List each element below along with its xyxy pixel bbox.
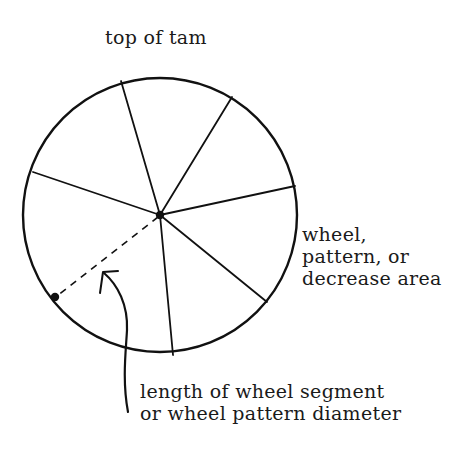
- length-label-line: or wheel pattern diameter: [140, 402, 401, 424]
- dashed-radius-line: [57, 217, 158, 296]
- area-label-line: pattern, or: [302, 245, 442, 267]
- area-label: wheel, pattern, or decrease area: [302, 223, 442, 289]
- arrowhead-icon: [100, 271, 118, 293]
- length-label: length of wheel segment or wheel pattern…: [140, 380, 401, 424]
- spoke-line: [160, 215, 173, 355]
- spoke-line: [33, 172, 160, 215]
- edge-dot: [51, 293, 59, 301]
- diagram-title: top of tam: [105, 26, 207, 48]
- spoke-line: [121, 81, 160, 215]
- area-label-line: decrease area: [302, 267, 442, 289]
- length-label-line: length of wheel segment: [140, 380, 401, 402]
- spoke-line: [160, 97, 232, 215]
- area-label-line: wheel,: [302, 223, 442, 245]
- center-dot: [156, 211, 164, 219]
- spoke-line: [160, 215, 267, 302]
- spoke-line: [160, 186, 295, 215]
